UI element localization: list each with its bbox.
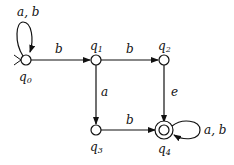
edge-label: a, b: [204, 123, 226, 137]
edge-q3-q4: b: [101, 113, 155, 130]
svg-text:q3: q3: [90, 140, 103, 155]
state-q3: q3: [90, 125, 103, 155]
edge-label: b: [126, 113, 134, 127]
svg-text:q4: q4: [158, 142, 171, 157]
edge-q2-q4: e: [164, 65, 178, 122]
svg-text:q2: q2: [158, 39, 171, 54]
svg-text:q1: q1: [90, 39, 103, 54]
edge-q4-q4: a, b: [172, 121, 226, 139]
edge-q0-q1: b: [31, 42, 90, 60]
state-q2: q2: [158, 39, 171, 65]
state-q1: q1: [90, 39, 103, 65]
automaton-diagram: a, b b b a e b a, b q0 q1 q2: [0, 0, 234, 165]
state-q0: q0: [19, 55, 32, 85]
state-q4-accepting: q4: [155, 121, 173, 157]
edge-q1-q3: a: [96, 65, 108, 124]
edge-label: a: [101, 85, 108, 99]
edge-label: a, b: [17, 5, 39, 19]
edge-label: e: [171, 85, 178, 99]
edge-q1-q2: b: [101, 42, 158, 60]
edge-label: b: [126, 42, 134, 56]
edge-label: b: [55, 42, 63, 56]
initial-state-marker: [14, 55, 21, 65]
svg-text:q0: q0: [19, 70, 32, 85]
edge-q0-q0: a, b: [17, 5, 39, 56]
